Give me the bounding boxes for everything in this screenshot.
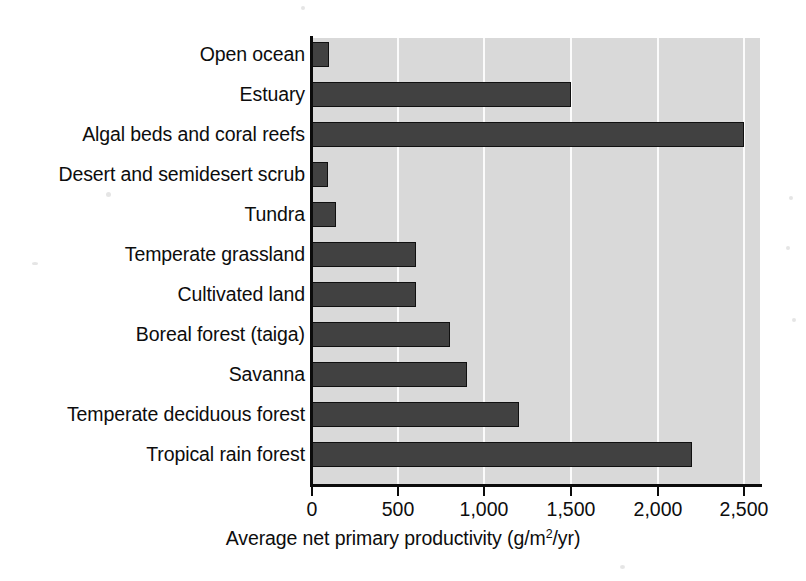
bar-tundra [312,202,336,227]
bar-algal-beds-and-coral-reefs [312,122,744,147]
x-tick-0 [311,486,313,496]
x-tick-2000 [657,486,659,496]
bar-temperate-grassland [312,242,416,267]
category-label-savanna: Savanna [0,362,305,387]
x-tick-2500 [743,486,745,496]
category-label-desert-and-semidesert-scrub: Desert and semidesert scrub [0,162,305,187]
x-tick-label-0: 0 [307,497,318,521]
x-tick-label-1000: 1,000 [460,497,509,521]
bar-tropical-rain-forest [312,442,692,467]
category-label-cultivated-land: Cultivated land [0,282,305,307]
scan-speck [301,6,305,10]
scan-speck [792,318,796,322]
x-axis-title-superscript: 2 [546,527,553,541]
gridline-2500 [743,38,745,484]
category-label-boreal-forest-taiga: Boreal forest (taiga) [0,322,305,347]
category-label-temperate-grassland: Temperate grassland [0,242,305,267]
bar-estuary [312,82,571,107]
bar-cultivated-land [312,282,416,307]
x-axis-title-main: Average net primary productivity (g/m [226,527,546,549]
bar-open-ocean [312,42,329,67]
bar-boreal-forest-taiga [312,322,450,347]
scan-speck [786,246,790,250]
category-label-tropical-rain-forest: Tropical rain forest [0,442,305,467]
bar-desert-and-semidesert-scrub [312,162,328,187]
plot-area [312,38,760,484]
x-axis-title-tail: /yr) [553,527,581,549]
x-tick-500 [397,486,399,496]
category-label-estuary: Estuary [0,82,305,107]
category-label-tundra: Tundra [0,202,305,227]
x-tick-label-2000: 2,000 [634,497,683,521]
x-tick-label-500: 500 [382,497,415,521]
x-tick-label-2500: 2,500 [720,497,769,521]
gridline-2000 [657,38,659,484]
scan-speck [106,192,111,197]
category-axis-labels: Open ocean Estuary Algal beds and coral … [0,38,305,484]
category-label-algal-beds-and-coral-reefs: Algal beds and coral reefs [0,122,305,147]
category-label-temperate-deciduous-forest: Temperate deciduous forest [0,402,305,427]
x-tick-1500 [570,486,572,496]
y-axis-line [310,36,313,486]
x-axis-title: Average net primary productivity (g/m2/y… [0,527,806,550]
bar-chart: Open ocean Estuary Algal beds and coral … [0,0,806,581]
x-tick-1000 [483,486,485,496]
x-tick-label-1500: 1,500 [547,497,596,521]
scan-speck [32,262,38,265]
bar-temperate-deciduous-forest [312,402,519,427]
category-label-open-ocean: Open ocean [0,42,305,67]
x-axis-line [310,484,762,487]
scan-speck [620,565,625,569]
bar-savanna [312,362,467,387]
scan-speck [789,196,793,200]
